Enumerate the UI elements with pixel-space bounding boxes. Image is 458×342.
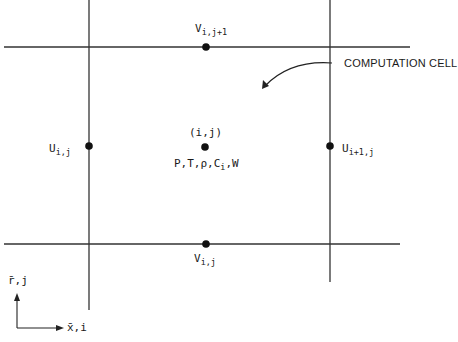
node-v-top: [202, 43, 210, 51]
node-v-bottom: [202, 240, 210, 248]
label-u-left: Ui,j: [49, 143, 71, 157]
label-center-index: (i,j): [189, 127, 222, 138]
label-v-bottom: Vi,j: [194, 253, 216, 267]
node-center: [201, 143, 209, 151]
axis-r-label: r̄,j: [8, 275, 28, 286]
label-center-variables: P,T,ρ,Ci,W: [174, 158, 239, 172]
node-u-left: [85, 142, 93, 150]
callout-arrow-icon: [265, 63, 332, 86]
label-v-top: Vi,j+1: [195, 23, 227, 37]
node-u-right: [326, 142, 334, 150]
label-u-right: Ui+1,j: [342, 143, 374, 157]
axis-x-arrow-icon: [56, 325, 64, 331]
axis-x-label: x̄,i: [67, 322, 87, 333]
axis-r-arrow-icon: [14, 293, 20, 301]
callout-arrowhead-icon: [262, 80, 269, 89]
computation-cell-label: COMPUTATION CELL: [344, 57, 457, 69]
